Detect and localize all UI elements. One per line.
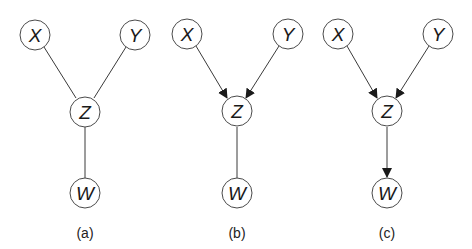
node-label: Z — [230, 101, 244, 122]
node-x: X — [20, 20, 50, 50]
edge-x-z-directed — [196, 46, 227, 98]
node-x: X — [323, 19, 353, 49]
node-label: Y — [282, 24, 296, 45]
edge-y-z-directed — [246, 46, 279, 98]
node-label: W — [76, 183, 96, 204]
node-z: Z — [372, 96, 402, 126]
graph-figure: X Y Z W (a) X Y Z — [0, 0, 472, 249]
edge-y-z — [94, 47, 126, 98]
node-z: Z — [222, 96, 252, 126]
node-label: X — [331, 24, 346, 45]
node-w: W — [70, 178, 100, 208]
node-label: X — [28, 25, 43, 46]
panel-label: (c) — [379, 225, 395, 241]
panel-a: X Y Z W (a) — [20, 20, 150, 241]
edge-x-z — [44, 47, 76, 98]
node-label: Z — [78, 102, 92, 123]
panel-c: X Y Z W (c) — [323, 19, 453, 241]
panel-label: (a) — [76, 225, 93, 241]
node-label: W — [378, 183, 398, 204]
node-y: Y — [273, 19, 303, 49]
edge-y-z-directed — [396, 46, 429, 98]
node-x: X — [172, 19, 202, 49]
node-label: W — [228, 183, 248, 204]
panel-label: (b) — [228, 225, 245, 241]
panel-b: X Y Z W (b) — [172, 19, 303, 241]
edge-x-z-directed — [347, 46, 377, 98]
node-label: X — [180, 24, 195, 45]
node-label: Y — [129, 25, 143, 46]
node-w: W — [222, 178, 252, 208]
node-w: W — [372, 178, 402, 208]
node-label: Z — [380, 101, 394, 122]
node-y: Y — [120, 20, 150, 50]
node-y: Y — [423, 19, 453, 49]
node-label: Y — [432, 24, 446, 45]
node-z: Z — [70, 97, 100, 127]
